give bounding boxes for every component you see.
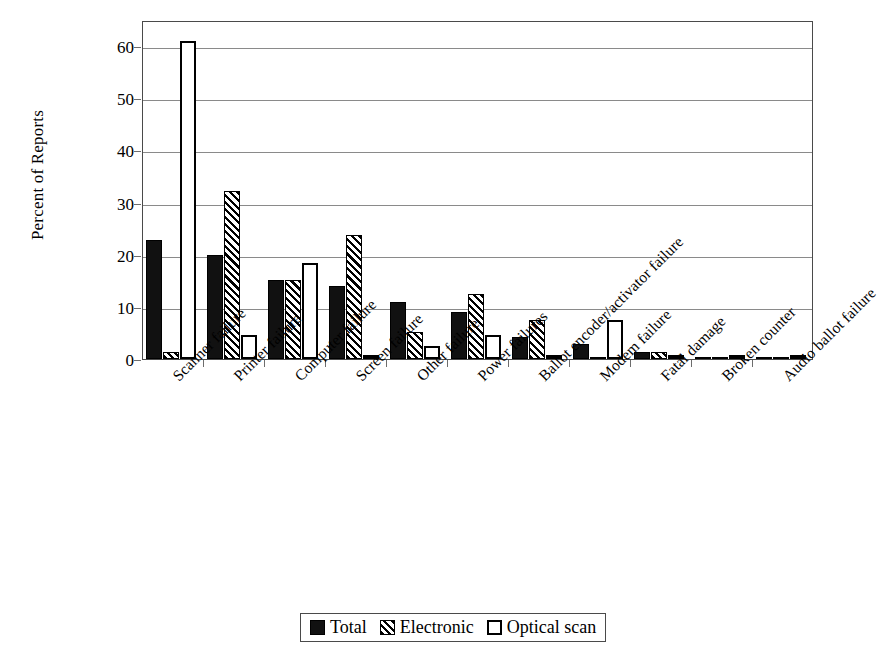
bar-optical[interactable] [302, 263, 318, 359]
bar-group [692, 22, 753, 359]
y-tick-label: 30 [90, 195, 134, 212]
y-tick-label: 60 [90, 39, 134, 56]
bar-electronic[interactable] [712, 357, 728, 359]
x-axis-category-labels: Scanner failurePrinter failureComputer f… [0, 360, 860, 560]
legend-label: Optical scan [507, 618, 596, 636]
hatched-square-icon [380, 620, 395, 635]
y-tick-mark [134, 256, 141, 257]
y-tick-mark [134, 151, 141, 152]
legend-entry[interactable]: Total [310, 618, 367, 636]
y-tick-label: 40 [90, 143, 134, 160]
legend-entry[interactable]: Optical scan [487, 618, 596, 636]
bar-group [448, 22, 509, 359]
bar-electronic[interactable] [651, 352, 667, 359]
bar-electronic[interactable] [590, 357, 606, 359]
solid-black-square-icon [310, 620, 325, 635]
legend-label: Electronic [400, 618, 474, 636]
white-square-icon [487, 620, 502, 635]
bar-group [387, 22, 448, 359]
bar-electronic[interactable] [773, 357, 789, 359]
y-tick-mark [134, 204, 141, 205]
bar-group [143, 22, 204, 359]
y-tick-mark [134, 47, 141, 48]
legend-label: Total [330, 618, 367, 636]
bar-group [265, 22, 326, 359]
chart-legend: TotalElectronicOptical scan [300, 613, 606, 642]
y-tick-mark [134, 99, 141, 100]
bar-total[interactable] [146, 240, 162, 359]
y-tick-mark [134, 308, 141, 309]
bar-series-layer [143, 22, 812, 359]
bar-electronic[interactable] [163, 352, 179, 359]
bar-optical[interactable] [180, 41, 196, 359]
y-axis-ticks: 0102030405060 [82, 21, 134, 360]
legend-entry[interactable]: Electronic [380, 618, 474, 636]
y-tick-label: 20 [90, 247, 134, 264]
y-tick-label: 10 [90, 299, 134, 316]
y-axis-title: Percent of Reports [28, 75, 48, 275]
y-tick-label: 50 [90, 91, 134, 108]
